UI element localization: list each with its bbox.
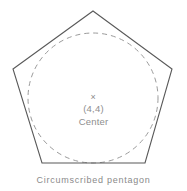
figure-caption: Circumscribed pentagon (0, 174, 187, 186)
figure-container: × (4,4) Center Circumscribed pentagon (0, 0, 187, 191)
inscribed-circle (28, 33, 158, 163)
geometry-diagram (0, 0, 187, 191)
pentagon-outline (13, 11, 172, 163)
